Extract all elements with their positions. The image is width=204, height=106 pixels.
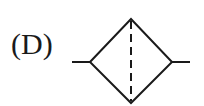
filter-symbol-icon bbox=[0, 0, 204, 106]
